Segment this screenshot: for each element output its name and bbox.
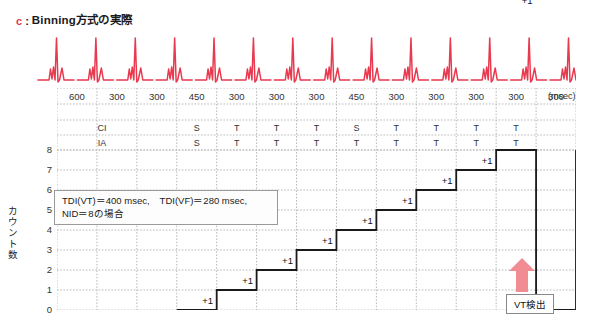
- ci-cell-8: T: [376, 120, 416, 135]
- step-increment-label-8: +1: [482, 155, 493, 166]
- ia-cell-11: T: [496, 135, 536, 150]
- ci-cell-1: [97, 120, 137, 135]
- parameters-annotation: TDI(VT)＝400 msec, TDI(VF)＝280 msec, NID＝…: [54, 190, 278, 225]
- y-tick-2: 2: [47, 265, 52, 275]
- annotation-line-1: TDI(VT)＝400 msec, TDI(VF)＝280 msec,: [62, 195, 271, 208]
- ia-cell-2: [137, 135, 177, 150]
- interval-cell-5: 300: [257, 88, 297, 104]
- y-axis-ticks: 876543210: [30, 150, 52, 310]
- annotation-line-2: NID＝8の場合: [62, 208, 271, 221]
- ecg-beat-4: [196, 38, 232, 82]
- y-tick-5: 5: [47, 205, 52, 215]
- ecg-beat-6: [274, 38, 310, 82]
- y-tick-7: 7: [47, 165, 52, 175]
- vt-detection-label: VT検出: [506, 294, 554, 314]
- ci-cell-5: T: [257, 120, 297, 135]
- ecg-beat-3: [156, 38, 192, 82]
- page-title: Binning方式の実際: [32, 15, 132, 27]
- y-tick-8: 8: [47, 145, 52, 155]
- y-axis-label: カウント数: [6, 205, 20, 260]
- ia-cell-1: [97, 135, 137, 150]
- interval-cell-4: 300: [217, 88, 257, 104]
- ia-cell-3: S: [177, 135, 217, 150]
- interval-cell-0: 600: [57, 88, 97, 104]
- step-increment-label-6: +1: [402, 195, 413, 206]
- step-increment-label-1: +1: [202, 295, 213, 306]
- ecg-waveform: [24, 30, 576, 88]
- step-increment-label-7: +1: [442, 175, 453, 186]
- vt-detection-arrow-icon: [508, 258, 536, 292]
- ci-cell-12: [536, 120, 576, 135]
- figure-title: c : Binning方式の実際: [16, 13, 132, 29]
- ci-row: STTTSTTTT: [57, 120, 576, 135]
- step-increment-label-undefined: +1: [522, 0, 533, 6]
- ecg-beat-10: [432, 38, 468, 82]
- interval-cell-8: 300: [376, 88, 416, 104]
- ecg-beat-12: [511, 38, 547, 82]
- ecg-beat-8: [353, 38, 389, 82]
- ci-cell-10: T: [456, 120, 496, 135]
- ci-cell-3: S: [177, 120, 217, 135]
- title-separator: :: [25, 16, 29, 27]
- figure-marker: c: [16, 16, 22, 27]
- interval-header-row: 600300300450300300300450300300300300300: [57, 88, 576, 104]
- ecg-beat-2: [117, 38, 153, 82]
- ci-cell-6: T: [297, 120, 337, 135]
- ia-cell-9: T: [416, 135, 456, 150]
- ci-cell-4: T: [217, 120, 257, 135]
- ecg-beat-1: [77, 38, 113, 82]
- ia-cell-8: T: [376, 135, 416, 150]
- interval-cell-10: 300: [456, 88, 496, 104]
- ia-cell-6: T: [297, 135, 337, 150]
- interval-cell-6: 300: [297, 88, 337, 104]
- ecg-beat-11: [471, 38, 507, 82]
- ci-cell-11: T: [496, 120, 536, 135]
- interval-unit-label: (msec): [548, 88, 576, 104]
- ia-cell-5: T: [257, 135, 297, 150]
- y-tick-1: 1: [47, 285, 52, 295]
- ecg-beat-7: [314, 38, 350, 82]
- y-tick-0: 0: [47, 305, 52, 315]
- ci-cell-9: T: [416, 120, 456, 135]
- ecg-beat-5: [235, 38, 271, 82]
- ci-cell-7: S: [336, 120, 376, 135]
- step-increment-label-3: +1: [282, 255, 293, 266]
- ia-cell-12: [536, 135, 576, 150]
- interval-cell-9: 300: [416, 88, 456, 104]
- ia-cell-0: [57, 135, 97, 150]
- step-increment-label-5: +1: [362, 215, 373, 226]
- interval-cell-2: 300: [137, 88, 177, 104]
- ia-cell-7: T: [336, 135, 376, 150]
- interval-cell-11: 300: [496, 88, 536, 104]
- ecg-beat-0: [38, 38, 74, 82]
- interval-cell-7: 450: [336, 88, 376, 104]
- y-tick-3: 3: [47, 245, 52, 255]
- ecg-beat-9: [392, 38, 428, 82]
- ia-cell-4: T: [217, 135, 257, 150]
- interval-cell-3: 450: [177, 88, 217, 104]
- ci-cell-2: [137, 120, 177, 135]
- interval-cell-1: 300: [97, 88, 137, 104]
- ci-cell-0: [57, 120, 97, 135]
- ecg-trace-svg: [24, 30, 576, 88]
- ecg-beat-13: [550, 38, 576, 82]
- y-tick-6: 6: [47, 185, 52, 195]
- ia-row: STTTTTTTT: [57, 135, 576, 150]
- ia-cell-10: T: [456, 135, 496, 150]
- step-increment-label-2: +1: [242, 275, 253, 286]
- y-tick-4: 4: [47, 225, 52, 235]
- step-increment-label-4: +1: [322, 235, 333, 246]
